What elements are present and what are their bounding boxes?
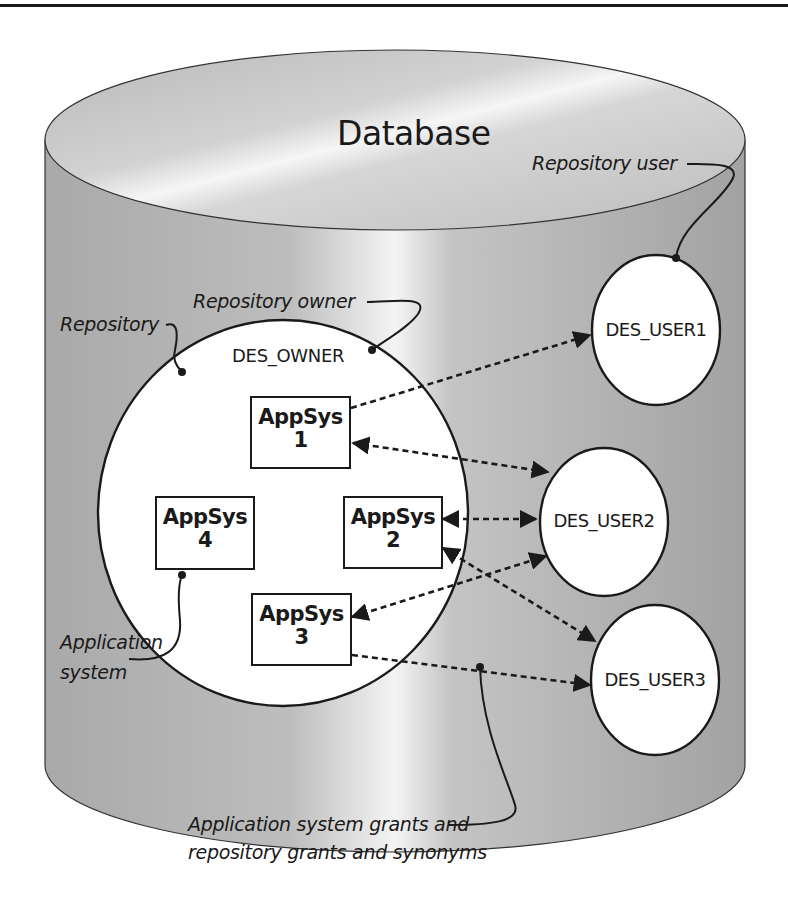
appsys-name: AppSys <box>345 506 441 529</box>
user-label-3: DES_USER3 <box>593 669 717 690</box>
grants-label-line1: Application system grants and <box>188 813 469 835</box>
repository-user-label: Repository user <box>532 152 677 174</box>
appsys-number: 2 <box>345 529 441 552</box>
repository-owner-label: Repository owner <box>193 290 355 312</box>
repository-owner-name: DES_OWNER <box>232 345 344 366</box>
appsys-number: 3 <box>253 626 350 649</box>
appsys-number: 1 <box>252 429 349 452</box>
user-label-2: DES_USER2 <box>542 510 666 531</box>
appsys-box-3: AppSys 3 <box>251 593 352 666</box>
application-system-label-line2: system <box>60 661 127 683</box>
repository-label: Repository <box>60 313 159 335</box>
appsys-name: AppSys <box>253 603 350 626</box>
user-label-1: DES_USER1 <box>594 319 718 340</box>
appsys-box-2: AppSys 2 <box>343 496 443 569</box>
appsys-box-1: AppSys 1 <box>250 396 351 469</box>
grants-label-line2: repository grants and synonyms <box>188 841 487 863</box>
appsys-name: AppSys <box>252 406 349 429</box>
application-system-label-line1: Application <box>60 631 163 653</box>
diagram-title: Database <box>337 114 490 153</box>
appsys-name: AppSys <box>157 506 253 529</box>
appsys-box-4: AppSys 4 <box>155 496 255 570</box>
appsys-number: 4 <box>157 529 253 552</box>
